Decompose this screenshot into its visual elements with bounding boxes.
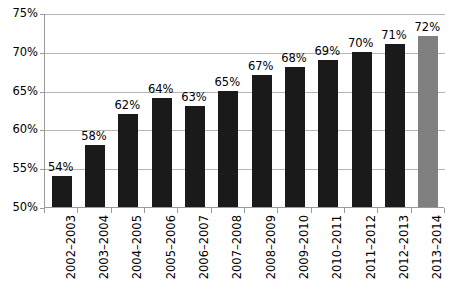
bar-2008–2009 — [252, 75, 272, 207]
bar-value-label-2003–2004: 58% — [72, 131, 116, 143]
y-axis-label-60: 60% — [0, 125, 38, 137]
y-tick-mark-60 — [40, 130, 44, 131]
x-axis-label-2010–2011: 2010–2011 — [332, 215, 344, 285]
plot-area — [44, 14, 444, 208]
bar-value-label-2006–2007: 63% — [172, 92, 216, 104]
bar-2011–2012 — [352, 52, 372, 207]
x-tick-mark-11 — [411, 208, 412, 213]
x-tick-mark-9 — [344, 208, 345, 213]
y-tick-mark-70 — [40, 53, 44, 54]
x-tick-mark-0 — [44, 208, 45, 213]
bar-value-label-2002–2003: 54% — [39, 162, 83, 174]
x-axis-label-2003–2004: 2003–2004 — [99, 215, 111, 285]
y-axis-label-55: 55% — [0, 163, 38, 175]
x-axis-label-2004–2005: 2004–2005 — [132, 215, 144, 285]
bar-2006–2007 — [185, 106, 205, 207]
y-axis-label-70: 70% — [0, 47, 38, 59]
x-axis-label-2002–2003: 2002–2003 — [66, 215, 78, 285]
y-axis-label-75: 75% — [0, 8, 38, 20]
bar-2005–2006 — [152, 98, 172, 207]
x-tick-mark-5 — [211, 208, 212, 213]
x-axis-label-2011–2012: 2011–2012 — [366, 215, 378, 285]
x-axis-label-2012–2013: 2012–2013 — [399, 215, 411, 285]
x-tick-mark-3 — [144, 208, 145, 213]
bar-2003–2004 — [85, 145, 105, 207]
y-axis-label-65: 65% — [0, 86, 38, 98]
bar-2004–2005 — [118, 114, 138, 207]
bar-value-label-2007–2008: 65% — [205, 77, 249, 89]
bar-value-label-2013–2014: 72% — [405, 22, 449, 34]
x-tick-mark-7 — [277, 208, 278, 213]
x-axis-label-2007–2008: 2007–2008 — [232, 215, 244, 285]
x-axis-label-2005–2006: 2005–2006 — [166, 215, 178, 285]
x-tick-mark-6 — [244, 208, 245, 213]
x-tick-mark-1 — [77, 208, 78, 213]
bar-2010–2011 — [318, 60, 338, 207]
x-tick-mark-12 — [444, 208, 445, 213]
x-tick-mark-8 — [311, 208, 312, 213]
bar-value-label-2004–2005: 62% — [105, 100, 149, 112]
bar-2007–2008 — [218, 91, 238, 207]
x-axis-label-2006–2007: 2006–2007 — [199, 215, 211, 285]
gridline-75 — [45, 14, 445, 15]
x-tick-mark-2 — [111, 208, 112, 213]
bar-2013–2014 — [418, 36, 438, 207]
bar-2009–2010 — [285, 67, 305, 207]
x-axis-label-2013–2014: 2013–2014 — [432, 215, 444, 285]
x-tick-mark-10 — [377, 208, 378, 213]
x-tick-mark-4 — [177, 208, 178, 213]
bar-2012–2013 — [385, 44, 405, 207]
y-axis-label-50: 50% — [0, 202, 38, 214]
x-axis-label-2008–2009: 2008–2009 — [266, 215, 278, 285]
x-axis-label-2009–2010: 2009–2010 — [299, 215, 311, 285]
bar-2002–2003 — [52, 176, 72, 207]
bar-chart: 50%55%60%65%70%75% 54%58%62%64%63%65%67%… — [0, 0, 452, 290]
y-tick-mark-75 — [40, 14, 44, 15]
y-tick-mark-65 — [40, 92, 44, 93]
